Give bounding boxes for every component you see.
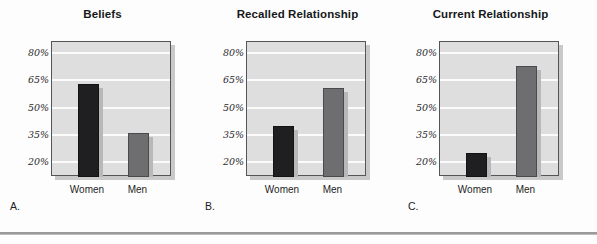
y-tick-label: 80%	[5, 46, 49, 57]
bar-men[interactable]	[323, 88, 344, 177]
y-tick-label: 80%	[393, 46, 437, 57]
y-tick-label: 65%	[200, 74, 244, 85]
bar-men[interactable]	[516, 66, 537, 177]
plot-inner-b	[247, 42, 365, 175]
figure-container: Beliefs 20%35%50%65%80% A. WomenMen Reca…	[0, 0, 597, 244]
category-label-men: Men	[323, 184, 342, 195]
y-tick-label: 65%	[393, 74, 437, 85]
panel-title-b: Recalled Relationship	[199, 8, 396, 20]
plot-inner-a	[52, 42, 170, 175]
y-tick-label: 20%	[5, 156, 49, 167]
gridline-65	[247, 79, 365, 81]
y-tick-label: 35%	[5, 129, 49, 140]
y-tick-label: 35%	[393, 129, 437, 140]
plot-area-c	[439, 41, 559, 176]
bottom-divider-rule	[0, 232, 597, 235]
y-tick-label: 20%	[393, 156, 437, 167]
plot-area-b	[246, 41, 366, 176]
bar-women[interactable]	[78, 84, 99, 177]
y-tick-label: 65%	[5, 74, 49, 85]
y-tick-label: 50%	[200, 101, 244, 112]
y-tick-label: 50%	[5, 101, 49, 112]
panel-letter-a: A.	[10, 200, 20, 212]
y-tick-label: 35%	[200, 129, 244, 140]
gridline-80	[440, 52, 558, 54]
gridline-35	[52, 134, 170, 136]
category-label-men: Men	[516, 184, 535, 195]
bar-men[interactable]	[128, 133, 149, 177]
gridline-65	[52, 79, 170, 81]
panel-title-a: Beliefs	[4, 8, 201, 20]
chart-panel-c: Current Relationship 20%35%50%65%80% C. …	[392, 0, 589, 215]
y-axis-a: 20%35%50%65%80%	[4, 41, 49, 176]
bar-women[interactable]	[466, 153, 487, 177]
bar-women[interactable]	[273, 126, 294, 177]
gridline-80	[52, 52, 170, 54]
chart-panel-a: Beliefs 20%35%50%65%80% A. WomenMen	[4, 0, 201, 215]
category-label-women: Women	[265, 184, 299, 195]
category-label-men: Men	[128, 184, 147, 195]
plot-inner-c	[440, 42, 558, 175]
y-tick-label: 50%	[393, 101, 437, 112]
y-axis-c: 20%35%50%65%80%	[392, 41, 437, 176]
y-tick-label: 20%	[200, 156, 244, 167]
panel-letter-c: C.	[408, 200, 419, 212]
y-axis-b: 20%35%50%65%80%	[199, 41, 244, 176]
category-label-women: Women	[70, 184, 104, 195]
panel-title-c: Current Relationship	[392, 8, 589, 20]
plot-area-a	[51, 41, 171, 176]
gridline-80	[247, 52, 365, 54]
panel-letter-b: B.	[205, 200, 215, 212]
gridline-50	[52, 107, 170, 109]
category-label-women: Women	[458, 184, 492, 195]
chart-panel-b: Recalled Relationship 20%35%50%65%80% B.…	[199, 0, 396, 215]
y-tick-label: 80%	[200, 46, 244, 57]
